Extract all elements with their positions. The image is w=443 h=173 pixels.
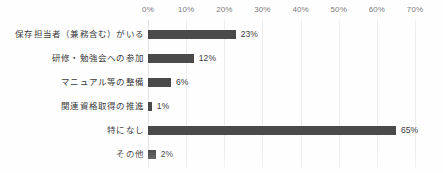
bar-value-label: 23%	[241, 29, 258, 40]
category-label: 研修・勉強会への参加	[4, 52, 148, 64]
bar-row: その他2%	[0, 142, 443, 166]
bar-row: 研修・勉強会への参加12%	[0, 46, 443, 70]
bar-container: 1%	[148, 94, 169, 118]
category-label: マニュアル等の整備	[4, 76, 148, 88]
bar	[148, 78, 171, 87]
x-axis-tick-label: 0%	[142, 4, 154, 15]
x-axis-tick-label: 60%	[369, 4, 385, 15]
bar-container: 23%	[148, 22, 258, 46]
x-axis-tick-label: 40%	[292, 4, 308, 15]
x-axis-tick-label: 50%	[331, 4, 347, 15]
bar-container: 65%	[148, 118, 418, 142]
bar-value-label: 2%	[161, 149, 174, 160]
category-label: 関連資格取得の推進	[4, 100, 148, 112]
bar	[148, 150, 156, 159]
bar-container: 6%	[148, 70, 188, 94]
bar-value-label: 12%	[199, 53, 216, 64]
x-axis-tick-label: 10%	[178, 4, 194, 15]
bar-rows: 保存担当者（兼務含む）がいる23%研修・勉強会への参加12%マニュアル等の整備6…	[0, 20, 443, 168]
bar-value-label: 6%	[176, 77, 189, 88]
category-label: その他	[4, 148, 148, 160]
x-axis-tick-label: 30%	[254, 4, 270, 15]
bar-row: 保存担当者（兼務含む）がいる23%	[0, 22, 443, 46]
bar-value-label: 65%	[401, 125, 418, 136]
horizontal-bar-chart: 0%10%20%30%40%50%60%70% 保存担当者（兼務含む）がいる23…	[0, 0, 443, 173]
x-axis-tick-label: 20%	[216, 4, 232, 15]
bar	[148, 102, 152, 111]
bar-row: マニュアル等の整備6%	[0, 70, 443, 94]
x-axis-tick-label: 70%	[407, 4, 423, 15]
category-label: 特になし	[4, 124, 148, 136]
bar-container: 2%	[148, 142, 173, 166]
bar	[148, 54, 194, 63]
bar	[148, 126, 396, 135]
category-label: 保存担当者（兼務含む）がいる	[4, 28, 148, 40]
bar	[148, 30, 236, 39]
bar-row: 特になし65%	[0, 118, 443, 142]
bar-row: 関連資格取得の推進1%	[0, 94, 443, 118]
bar-value-label: 1%	[157, 101, 170, 112]
bar-container: 12%	[148, 46, 216, 70]
x-axis-tick-labels: 0%10%20%30%40%50%60%70%	[148, 4, 415, 17]
